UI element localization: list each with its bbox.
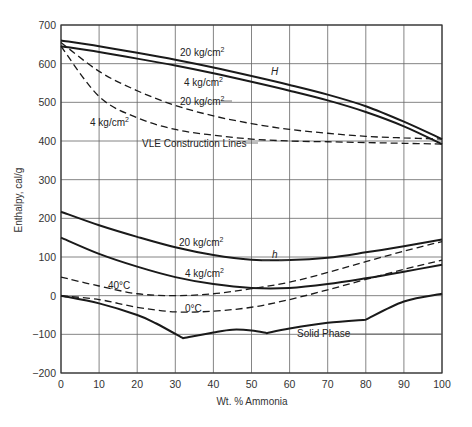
x-axis-label: Wt. % Ammonia	[216, 396, 288, 407]
label-h-20: 20 kg/cm2	[179, 236, 224, 248]
label-H-4: 4 kg/cm2	[184, 76, 223, 88]
label-dash-4: 4 kg/cm2	[90, 116, 129, 128]
x-axis-ticks: 0102030405060708090100	[58, 378, 451, 390]
y-tick-label: 700	[38, 19, 56, 31]
label-h: h	[272, 249, 278, 260]
label-H: H	[271, 66, 279, 77]
x-tick-label: 40	[208, 378, 220, 390]
label-solid-phase: Solid Phase	[297, 328, 351, 339]
y-tick-label: 100	[38, 251, 56, 263]
y-tick-label: −100	[32, 328, 56, 340]
grid-lines	[61, 25, 442, 373]
y-tick-label: −200	[32, 367, 56, 379]
x-tick-label: 10	[93, 378, 105, 390]
x-tick-label: 50	[246, 378, 258, 390]
y-tick-label: 500	[38, 96, 56, 108]
x-tick-label: 30	[169, 378, 181, 390]
y-axis-ticks: 7006005004003002001000−100−200	[32, 19, 56, 379]
label-h-4: 4 kg/cm2	[185, 267, 224, 279]
x-tick-label: 70	[322, 378, 334, 390]
label-H-20: 20 kg/cm2	[180, 46, 225, 58]
label-dash-20: 20 kg/cm2	[180, 95, 225, 107]
label-vle: VLE Construction Lines	[142, 138, 247, 149]
y-tick-label: 400	[38, 135, 56, 147]
y-axis-label: Enthalpy, cal/g	[13, 168, 24, 233]
x-tick-label: 0	[58, 378, 64, 390]
x-tick-label: 80	[360, 378, 372, 390]
x-tick-label: 100	[433, 378, 451, 390]
x-tick-label: 60	[284, 378, 296, 390]
x-tick-label: 90	[398, 378, 410, 390]
label-40C: 40°C	[108, 280, 130, 291]
y-tick-label: 300	[38, 174, 56, 186]
enthalpy-concentration-chart: 7006005004003002001000−100−200 010203040…	[0, 0, 472, 427]
y-tick-label: 600	[38, 58, 56, 70]
y-tick-label: 200	[38, 212, 56, 224]
x-tick-label: 20	[131, 378, 143, 390]
label-0C: 0°C	[185, 303, 202, 314]
y-tick-label: 0	[50, 290, 56, 302]
